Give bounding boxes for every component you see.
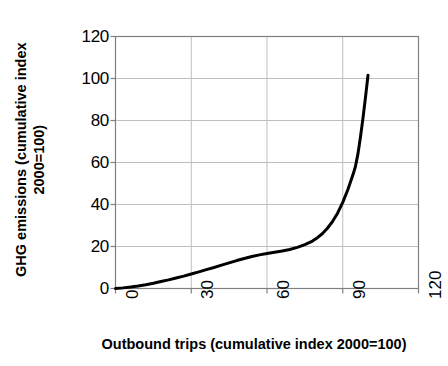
x-tick-label: 30 [198,280,218,299]
x-axis-label: Outbound trips (cumulative index 2000=10… [60,336,448,352]
x-tick-label: 120 [426,270,446,298]
x-tick-label: 90 [350,280,370,299]
chart-figure: GHG emissions (cumulative index 2000=100… [0,0,448,366]
x-axis-tick-labels: 0306090120 [0,0,448,366]
x-tick-label: 0 [123,289,143,298]
x-tick-label: 60 [274,280,294,299]
